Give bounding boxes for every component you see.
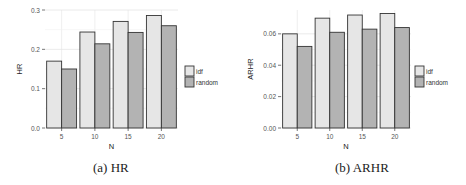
arhr-chart: 0.000.020.040.065101520NARHRidfrandom (b…	[233, 0, 466, 185]
bar-random	[330, 32, 345, 128]
x-tick-label: 10	[326, 133, 334, 140]
y-axis-label: ARHR	[246, 58, 255, 80]
bar-idf	[283, 34, 298, 128]
x-tick-label: 5	[60, 133, 64, 140]
bar-random	[95, 44, 110, 128]
x-tick-label: 5	[295, 133, 299, 140]
legend-label-idf: idf	[426, 68, 433, 75]
x-axis-label: N	[343, 142, 348, 151]
legend-label-random: random	[196, 79, 218, 86]
x-tick-label: 15	[125, 133, 133, 140]
legend-label-idf: idf	[196, 68, 203, 75]
x-tick-label: 20	[158, 133, 166, 140]
bar-idf	[348, 15, 363, 128]
arhr-caption: (b) ARHR	[335, 160, 389, 176]
y-tick-label: 0.02	[263, 93, 276, 100]
legend-key-random	[185, 77, 194, 87]
y-axis-label: HR	[15, 63, 24, 74]
bar-random	[128, 32, 143, 128]
bar-random	[161, 26, 176, 128]
bar-random	[62, 69, 77, 128]
y-tick-label: 0.2	[31, 46, 40, 53]
bar-idf	[146, 16, 161, 128]
x-tick-label: 10	[91, 133, 99, 140]
y-tick-label: 0.1	[31, 85, 40, 92]
y-tick-label: 0.0	[31, 125, 40, 132]
legend-key-random	[415, 77, 424, 87]
y-tick-label: 0.06	[263, 30, 276, 37]
bar-random	[297, 46, 312, 128]
x-tick-label: 15	[359, 133, 367, 140]
bar-idf	[80, 32, 95, 128]
hr-chart: 0.00.10.20.35101520NHRidfrandom (a) HR	[0, 0, 233, 185]
bar-idf	[315, 18, 330, 128]
bar-idf	[380, 13, 395, 128]
hr-caption: (a) HR	[93, 160, 129, 176]
bar-idf	[47, 61, 62, 128]
legend-key-idf	[415, 66, 424, 76]
y-tick-label: 0.00	[263, 125, 276, 132]
arhr-bar-plot: 0.000.020.040.065101520NARHRidfrandom	[233, 0, 466, 160]
legend-label-random: random	[426, 79, 448, 86]
bar-idf	[113, 21, 128, 128]
legend-key-idf	[185, 66, 194, 76]
x-axis-label: N	[109, 142, 114, 151]
y-tick-label: 0.3	[31, 7, 40, 14]
bar-random	[362, 29, 377, 128]
y-tick-label: 0.04	[263, 62, 276, 69]
x-tick-label: 20	[391, 133, 399, 140]
hr-bar-plot: 0.00.10.20.35101520NHRidfrandom	[0, 0, 233, 160]
bar-random	[395, 28, 410, 128]
